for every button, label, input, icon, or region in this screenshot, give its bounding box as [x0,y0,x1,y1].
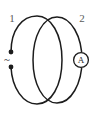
coil-1-label: 1 [9,12,15,24]
coil-2-label: 2 [79,12,85,24]
ammeter-label: A [78,55,85,65]
ac-source-symbol: ~ [4,53,10,65]
coil-1-loop [11,16,62,104]
coupled-coils-figure: A ~ 1 2 [0,0,97,115]
coil-diagram-svg: A ~ 1 2 [0,0,97,115]
terminal-dot-lower [9,65,14,70]
